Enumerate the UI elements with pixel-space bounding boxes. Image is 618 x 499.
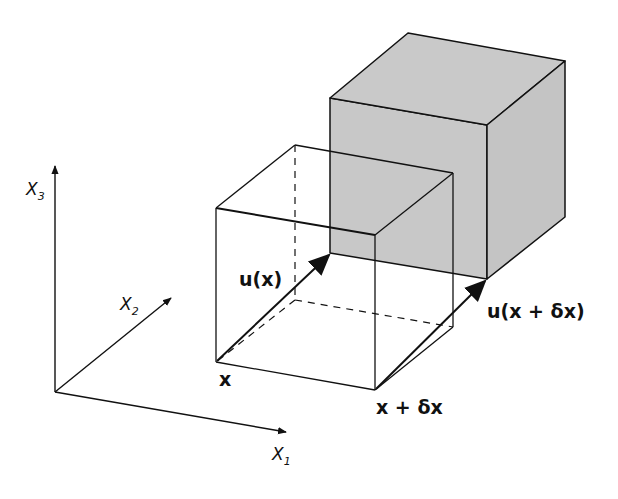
x1-axis	[55, 392, 286, 432]
x2-label: X2	[119, 294, 139, 318]
x2-axis	[55, 298, 171, 392]
displacement-diagram: X3 X2 X1 u(x) u(x + δx) x x + δx	[0, 0, 618, 499]
coordinate-axes	[55, 166, 286, 432]
label-u-x-dx: u(x + δx)	[487, 300, 585, 322]
deformed-cube-front-face	[330, 98, 487, 279]
deformed-cube	[330, 33, 565, 279]
x1-label: X1	[271, 444, 291, 468]
label-point-x-dx: x + δx	[376, 396, 443, 418]
x3-label: X3	[25, 179, 45, 203]
label-point-x: x	[219, 368, 231, 390]
displacement-arrow-u-x-dx	[376, 281, 485, 389]
label-u-x: u(x)	[239, 268, 282, 290]
